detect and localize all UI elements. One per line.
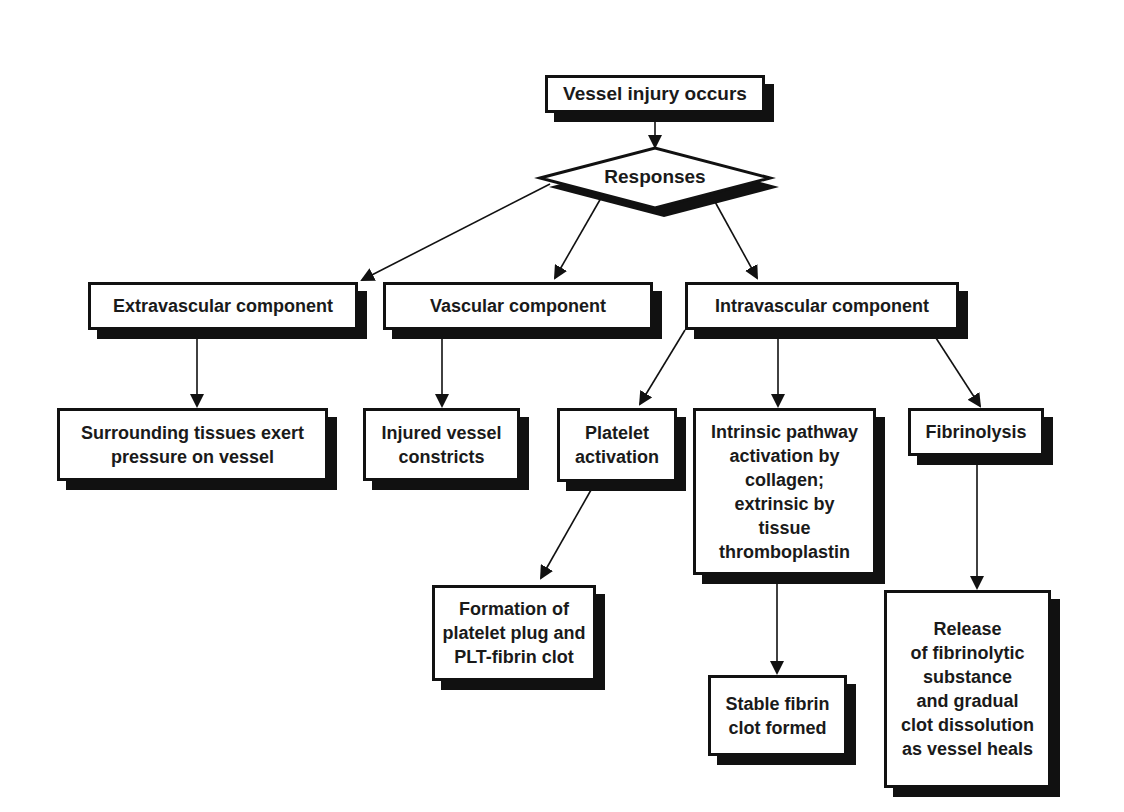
node-surrounding-tissues: Surrounding tissues exert pressure on ve… bbox=[57, 408, 328, 481]
node-responses-label: Responses bbox=[595, 166, 715, 188]
edge-intravascular-to-platelet bbox=[640, 330, 685, 404]
node-label: Injured vessel constricts bbox=[381, 421, 501, 469]
node-label: Vascular component bbox=[430, 294, 606, 318]
node-label: Stable fibrin clot formed bbox=[725, 692, 829, 740]
node-label: Intravascular component bbox=[715, 294, 929, 318]
node-label: Vessel injury occurs bbox=[563, 82, 747, 106]
node-vascular: Vascular component bbox=[383, 282, 653, 330]
node-label: Platelet activation bbox=[575, 421, 659, 469]
node-stable-fibrin-clot: Stable fibrin clot formed bbox=[708, 675, 847, 756]
node-intravascular: Intravascular component bbox=[685, 282, 959, 330]
edge-responses-to-intravascular bbox=[714, 200, 757, 278]
node-injured-vessel: Injured vessel constricts bbox=[363, 408, 520, 481]
edge-responses-to-vascular bbox=[555, 198, 601, 278]
node-label: Release of fibrinolytic substance and gr… bbox=[901, 617, 1034, 761]
node-platelet-activation: Platelet activation bbox=[557, 408, 677, 482]
edge-responses-to-extravascular bbox=[362, 184, 550, 280]
node-label: Extravascular component bbox=[113, 294, 333, 318]
node-intrinsic-pathway: Intrinsic pathway activation by collagen… bbox=[693, 408, 876, 575]
node-vessel-injury: Vessel injury occurs bbox=[545, 75, 765, 113]
node-release-fibrinolytic: Release of fibrinolytic substance and gr… bbox=[884, 590, 1051, 788]
node-extravascular: Extravascular component bbox=[88, 282, 358, 330]
node-fibrinolysis: Fibrinolysis bbox=[908, 408, 1044, 456]
node-label: Formation of platelet plug and PLT-fibri… bbox=[442, 597, 585, 669]
node-label: Surrounding tissues exert pressure on ve… bbox=[81, 421, 304, 469]
node-label: Intrinsic pathway activation by collagen… bbox=[711, 420, 858, 564]
node-platelet-plug: Formation of platelet plug and PLT-fibri… bbox=[432, 585, 596, 681]
edge-intravascular-to-fibrinolysis bbox=[936, 338, 980, 406]
edge-platelet-to-plug bbox=[541, 490, 591, 578]
node-label: Fibrinolysis bbox=[925, 420, 1026, 444]
